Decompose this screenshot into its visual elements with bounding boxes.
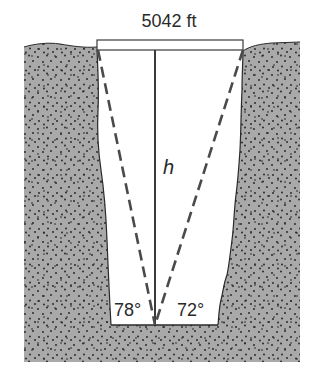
canyon-shaft	[97, 50, 243, 325]
height-label: h	[163, 157, 174, 177]
left-angle-label: 78°	[114, 301, 141, 319]
top-width-box	[97, 40, 243, 50]
right-angle-label: 72°	[177, 301, 204, 319]
top-width-label: 5042 ft	[0, 12, 314, 30]
shaft-fill	[97, 50, 243, 325]
canyon-diagram	[0, 0, 314, 368]
